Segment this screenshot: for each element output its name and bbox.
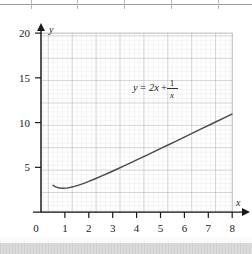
ruler-tick (218, 0, 219, 9)
x-axis-ticks (65, 212, 232, 218)
x-tick-label: 3 (110, 222, 116, 234)
x-tick-labels: 0 1 2 3 4 5 6 7 8 (33, 222, 235, 234)
ruler-tick (31, 0, 32, 9)
bottom-gray-band (0, 243, 252, 254)
ruler-tick (171, 0, 172, 9)
x-tick-label: 4 (134, 222, 140, 234)
equation-lhs: y (132, 82, 138, 93)
x-tick-label: 6 (182, 222, 188, 234)
top-ruler-strip (0, 0, 252, 13)
x-tick-label: 8 (229, 222, 235, 234)
equation-equals: = (140, 82, 146, 93)
y-tick-label: 15 (19, 72, 31, 84)
equation-plus: + (161, 82, 167, 93)
plot-grid (41, 33, 232, 212)
band-hatch-texture (0, 243, 252, 254)
x-tick-label: 5 (158, 222, 164, 234)
equation-denominator: x (169, 90, 174, 100)
ruler-tick (77, 0, 78, 9)
x-tick-label: 1 (62, 222, 68, 234)
y-axis-ticks (35, 33, 41, 167)
y-tick-label: 5 (25, 161, 31, 173)
y-tick-label: 20 (19, 27, 31, 39)
equation-linear-term: 2x (149, 82, 159, 93)
ruler-line (0, 4, 252, 5)
y-tick-label: 10 (19, 117, 31, 129)
y-tick-labels: 20 15 10 5 (19, 27, 31, 173)
x-tick-label: 2 (86, 222, 92, 234)
x-axis-label: x (235, 197, 241, 208)
x-tick-label: 7 (206, 222, 212, 234)
y-axis-label: y (48, 24, 54, 35)
equation-numerator: 1 (170, 78, 175, 88)
origin-label: 0 (33, 222, 39, 234)
chart-figure: 20 15 10 5 0 1 2 3 4 5 6 7 8 y x y = 2x (0, 13, 252, 241)
ruler-tick (124, 0, 125, 9)
